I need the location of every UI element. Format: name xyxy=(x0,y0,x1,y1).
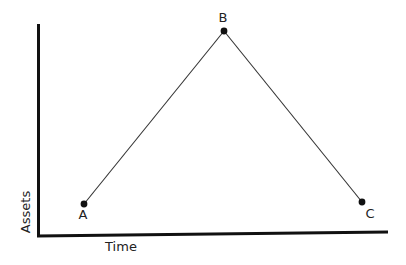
point-c-marker xyxy=(359,199,366,206)
segment-b-c xyxy=(224,31,362,202)
assets-time-diagram: A B C Time Assets xyxy=(0,0,406,265)
x-axis-label: Time xyxy=(104,239,137,254)
y-axis-label: Assets xyxy=(18,191,33,234)
point-b-marker xyxy=(221,28,228,35)
x-axis xyxy=(37,232,388,236)
point-c-label: C xyxy=(365,206,374,221)
segment-a-b xyxy=(84,31,224,204)
diagram-canvas: A B C Time Assets xyxy=(0,0,406,265)
point-b-label: B xyxy=(219,10,228,25)
point-a-label: A xyxy=(79,207,88,222)
